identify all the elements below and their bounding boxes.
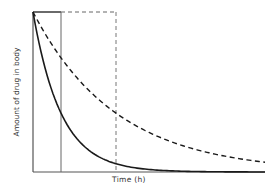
slow-decay-curve [33,12,265,162]
markers [33,12,116,172]
axes [33,12,265,172]
chart [0,0,276,193]
y-axis-label: Amount of drug in body [12,48,21,137]
fast-decay-curve [33,12,265,172]
x-axis-label: Time (h) [112,175,146,184]
curves [33,12,265,172]
